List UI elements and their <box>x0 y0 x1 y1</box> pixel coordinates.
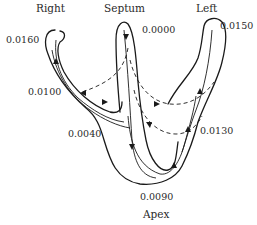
label-left: Left <box>196 2 218 14</box>
timing-right-mid: 0.0100 <box>28 86 61 97</box>
label-septum: Septum <box>104 2 145 14</box>
label-apex: Apex <box>142 208 170 220</box>
septum-conduction-path-2 <box>128 96 196 174</box>
heart-conduction-diagram: Right Septum Left Apex 0.0160 0.0100 0.0… <box>0 0 257 225</box>
arrow-septum-diag <box>146 122 152 128</box>
arrow-septum-down <box>123 34 129 40</box>
arrow-septum-left-front <box>154 101 160 107</box>
label-right: Right <box>36 2 66 14</box>
timing-septum-base: 0.0040 <box>68 128 101 139</box>
right-ventricle-wall <box>58 31 122 113</box>
timing-apex: 0.0090 <box>140 191 173 202</box>
activation-front-right <box>82 48 128 92</box>
timing-right-top: 0.0160 <box>6 34 39 45</box>
arrow-right-front <box>102 99 108 105</box>
timing-left-mid: 0.0130 <box>200 125 233 136</box>
timing-septum-top: 0.0000 <box>142 24 175 35</box>
